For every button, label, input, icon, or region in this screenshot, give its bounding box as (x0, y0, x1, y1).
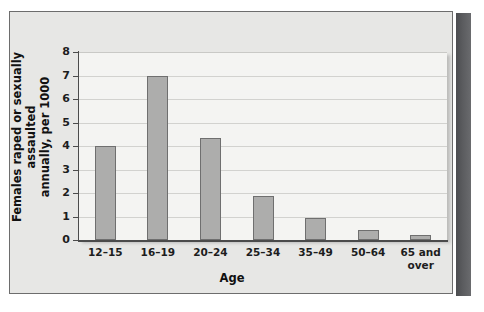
gridline (79, 76, 447, 77)
x-tick-label-line: 16–19 (128, 246, 188, 259)
y-tick-label: 8 (54, 46, 70, 57)
gridline (79, 193, 447, 194)
y-tick-label: 5 (54, 117, 70, 128)
x-tick-label-line: 25–34 (233, 246, 293, 259)
x-tick-label: 12–15 (75, 246, 135, 259)
y-axis-title-line-1: Females raped or sexually assaulted (10, 32, 38, 242)
bar (305, 218, 326, 240)
x-tick-label: 25–34 (233, 246, 293, 259)
y-tick-label: 4 (54, 140, 70, 151)
y-axis-title-line-2: annually, per 1000 (38, 32, 52, 242)
y-tick-label: 0 (54, 234, 70, 245)
x-tick-label-line: 35–49 (286, 246, 346, 259)
bar (253, 196, 274, 240)
y-tick-label: 2 (54, 187, 70, 198)
x-axis-line (78, 240, 448, 242)
gridline (79, 146, 447, 147)
bar (200, 138, 221, 240)
y-tick-label: 6 (54, 93, 70, 104)
plot-wrap (79, 52, 447, 240)
chart-plate: Females raped or sexually assaulted annu… (9, 11, 453, 294)
x-tick-label: 65 andover (391, 246, 451, 271)
bar (95, 146, 116, 240)
x-tick-label: 50–64 (338, 246, 398, 259)
x-tick-label-line: 20–24 (180, 246, 240, 259)
y-axis-line (78, 51, 79, 241)
page-spine-shadow (456, 13, 471, 296)
plot-area (79, 52, 447, 240)
gridline (79, 170, 447, 171)
x-tick-label-line: 65 and (391, 246, 451, 259)
gridline (79, 99, 447, 100)
y-tick-label: 1 (54, 211, 70, 222)
x-tick-label-line: 12–15 (75, 246, 135, 259)
y-axis-title: Females raped or sexually assaulted annu… (10, 32, 52, 242)
x-tick-label: 16–19 (128, 246, 188, 259)
x-tick-label-line: over (391, 259, 451, 272)
y-tick-label: 7 (54, 70, 70, 81)
gridline (79, 123, 447, 124)
gridline (79, 52, 447, 53)
figure-root: Females raped or sexually assaulted annu… (0, 0, 484, 312)
x-tick-label: 20–24 (180, 246, 240, 259)
x-tick-label-line: 50–64 (338, 246, 398, 259)
bar (147, 76, 168, 241)
x-tick-label: 35–49 (286, 246, 346, 259)
x-axis-title: Age (10, 271, 454, 285)
page-spine-gradient (456, 13, 471, 296)
bar (358, 230, 379, 240)
y-tick-label: 3 (54, 164, 70, 175)
